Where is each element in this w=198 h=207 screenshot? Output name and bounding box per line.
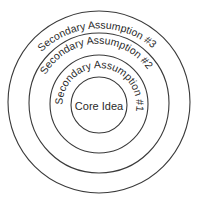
label-core-idea: Core Idea: [75, 100, 124, 112]
concentric-diagram: Secondary Assumption #3 Secondary Assump…: [0, 0, 198, 207]
